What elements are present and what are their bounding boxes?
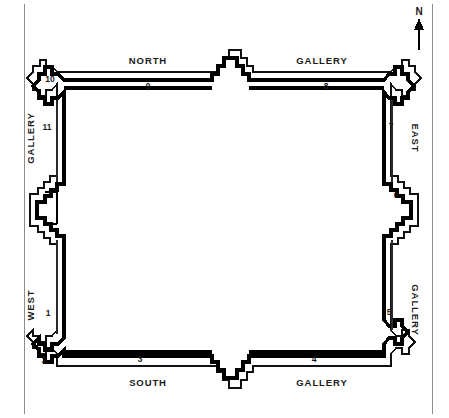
gallery-label-west-upper: GALLERY	[25, 112, 36, 163]
wall-segment-number-11: 11	[43, 122, 52, 132]
wall-segment-number-6: 6	[394, 190, 399, 200]
wall-segment-number-3: 3	[138, 354, 143, 364]
gallery-label-south-left: SOUTH	[129, 377, 167, 388]
wall-segment-number-4: 4	[312, 354, 317, 364]
wall-segment-number-8: 8	[324, 81, 329, 91]
compass-north-label: N	[415, 6, 422, 17]
wall-segment-number-7: 7	[389, 121, 394, 131]
wall-segment-number-9: 9	[146, 81, 151, 91]
wall-segment-number-10: 10	[45, 74, 54, 84]
gallery-label-east-upper: EAST	[410, 124, 421, 153]
gallery-label-north-right: GALLERY	[296, 55, 347, 66]
wall-segment-number-1: 1	[46, 308, 51, 318]
gallery-label-east-lower: GALLERY	[410, 284, 421, 335]
wall-segment-number-5: 5	[387, 307, 392, 317]
gallery-label-south-right: GALLERY	[296, 377, 347, 388]
gallery-label-north-left: NORTH	[129, 55, 167, 66]
fort-floor-plan-diagram	[0, 0, 449, 418]
wall-segment-number-2: 2	[42, 355, 47, 365]
gallery-label-west-lower: WEST	[25, 289, 36, 320]
